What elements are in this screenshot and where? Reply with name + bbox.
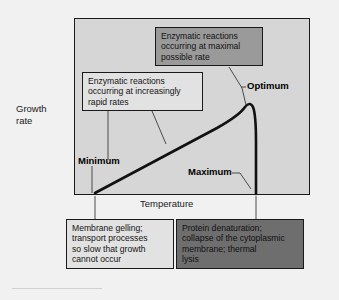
callout-maximal-rate-line-2: occurring at maximal bbox=[161, 41, 258, 51]
callout-protein-denaturation: Protein denaturation; collapse of the cy… bbox=[176, 219, 304, 269]
callout-protein-denaturation-line-2: collapse of the cytoplasmic bbox=[182, 233, 299, 243]
x-axis-title: Temperature bbox=[140, 198, 193, 209]
callout-maximal-rate-line-3: possible rate bbox=[161, 52, 258, 62]
footer-rule bbox=[12, 288, 102, 289]
label-maximum: Maximum bbox=[188, 166, 232, 177]
callout-membrane-gelling-line-4: cannot occur bbox=[72, 254, 169, 264]
callout-increasing-rates-line-1: Enzymatic reactions bbox=[88, 76, 198, 86]
label-optimum: Optimum bbox=[247, 80, 289, 91]
callout-increasing-rates: Enzymatic reactions occurring at increas… bbox=[82, 72, 203, 111]
y-axis-title-line-2: rate bbox=[16, 115, 32, 126]
callout-membrane-gelling-line-2: transport processes bbox=[72, 233, 169, 243]
callout-membrane-gelling: Membrane gelling; transport processes so… bbox=[66, 219, 174, 269]
label-minimum: Minimum bbox=[78, 155, 120, 166]
growth-rate-temperature-figure: Growth rate Temperature Minimum Optimum … bbox=[0, 0, 339, 300]
y-axis-title: Growth rate bbox=[16, 103, 72, 126]
callout-membrane-gelling-line-1: Membrane gelling; bbox=[72, 223, 169, 233]
callout-increasing-rates-line-3: rapid rates bbox=[88, 97, 198, 107]
callout-maximal-rate-line-1: Enzymatic reactions bbox=[161, 31, 258, 41]
callout-protein-denaturation-line-3: membrane; thermal bbox=[182, 244, 299, 254]
y-axis-title-line-1: Growth bbox=[16, 103, 47, 114]
callout-increasing-rates-line-2: occurring at increasingly bbox=[88, 86, 198, 96]
callout-protein-denaturation-line-4: lysis bbox=[182, 254, 299, 264]
callout-maximal-rate: Enzymatic reactions occurring at maximal… bbox=[155, 27, 263, 66]
callout-protein-denaturation-line-1: Protein denaturation; bbox=[182, 223, 299, 233]
callout-membrane-gelling-line-3: so slow that growth bbox=[72, 244, 169, 254]
